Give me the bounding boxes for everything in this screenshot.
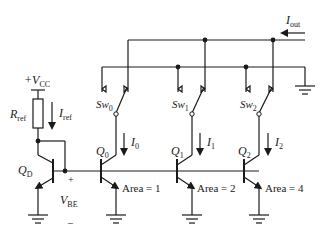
iref-label: Iref	[58, 106, 72, 122]
ground-icon	[182, 215, 202, 223]
q2-label: Q2	[238, 144, 251, 160]
ground-icon	[106, 215, 126, 223]
ground-rail	[102, 65, 305, 86]
ground-icon	[28, 215, 48, 223]
sw2-label: Sw2	[240, 98, 257, 113]
i1-label: I1	[206, 135, 215, 151]
ground-icon	[295, 86, 315, 94]
i0-label: I0	[130, 135, 139, 151]
vbe-minus: –	[67, 217, 74, 228]
base-line	[53, 169, 259, 174]
area1-label: Area = 2	[197, 182, 236, 194]
q1-label: Q1	[171, 144, 184, 160]
q0-label: Q0	[96, 144, 109, 160]
transistor-q2	[244, 116, 259, 215]
vcc-terminal	[31, 90, 45, 99]
sw1-label: Sw1	[172, 98, 189, 113]
rref-label: Rref	[9, 107, 27, 123]
iout-label: Iout	[285, 13, 301, 29]
resistor-rref	[33, 99, 43, 128]
vbe-plus: +	[68, 174, 74, 185]
area2-label: Area = 4	[265, 182, 304, 194]
area0-label: Area = 1	[122, 182, 161, 194]
transistor-q1	[177, 116, 192, 215]
output-rail	[128, 38, 305, 86]
qd-label: QD	[18, 163, 33, 179]
vcc-label: +VCC	[24, 73, 50, 89]
circuit-diagram: Iout Sw0 Sw1 Sw2 +VCC	[0, 0, 322, 239]
ground-icon	[249, 215, 269, 223]
vbe-label: VBE	[60, 193, 78, 209]
i2-label: I2	[274, 135, 283, 151]
sw0-label: Sw0	[96, 98, 113, 113]
transistor-q0	[101, 116, 116, 215]
